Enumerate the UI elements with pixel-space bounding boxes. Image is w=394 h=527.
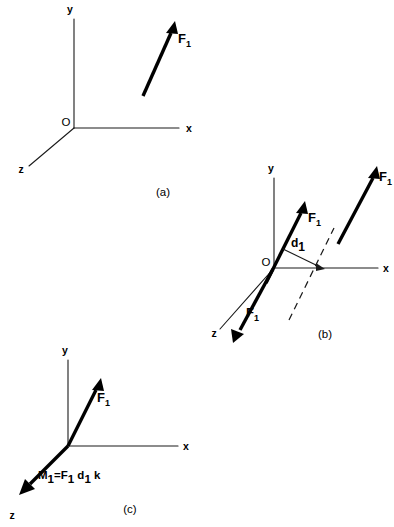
panel-b-force-offset-shaft <box>338 178 373 244</box>
panel-a-caption: (a) <box>156 186 170 198</box>
panel-c-force-shaft <box>68 390 96 446</box>
panel-a-force-label: F1 <box>178 31 191 49</box>
panel-a-x-label: x <box>186 122 192 134</box>
panel-b-force-down-arrowhead <box>231 329 244 343</box>
panel-b-force-offset-label: F1 <box>379 169 392 187</box>
panel-c-force-label: F1 <box>97 390 110 408</box>
panel-b-z-label: z <box>211 327 216 339</box>
panel-a-z-label: z <box>18 163 23 175</box>
panel-b-x-label: x <box>383 262 389 274</box>
panel-a-origin-label: O <box>62 116 71 128</box>
panel-c-y-label: y <box>62 344 68 356</box>
panel-a-y-label: y <box>67 3 73 15</box>
figure-root: y x z O F1 (a) y x z O <box>0 0 394 527</box>
panel-b-force-up-arrowhead <box>296 201 308 214</box>
panel-c: y x z F1 M1=F1 d1 k (c) <box>9 344 189 521</box>
panel-c-z-label: z <box>9 509 14 521</box>
panel-b-origin-label: O <box>262 256 271 268</box>
force-moment-diagram: y x z O F1 (a) y x z O <box>0 0 394 527</box>
panel-b-moment-arm-arrowhead <box>316 263 325 271</box>
panel-a: y x z O F1 (a) <box>18 3 192 198</box>
panel-c-x-label: x <box>183 440 189 452</box>
panel-c-moment-formula: M1=F1 d1 k <box>38 469 101 485</box>
panel-b-y-label: y <box>268 162 274 174</box>
panel-b-caption: (b) <box>318 328 332 340</box>
panel-b-force-down-label: F1 <box>246 305 259 323</box>
panel-b-force-up-label: F1 <box>308 210 321 228</box>
panel-c-caption: (c) <box>123 503 137 515</box>
panel-b: y x z O F1 F1 F1 d1 (b) <box>211 162 392 343</box>
panel-a-force-vector-shaft <box>143 33 171 96</box>
panel-b-distance-label: d1 <box>291 236 305 254</box>
panel-a-force-vector-arrowhead <box>166 21 178 34</box>
panel-a-z-axis <box>29 128 74 166</box>
